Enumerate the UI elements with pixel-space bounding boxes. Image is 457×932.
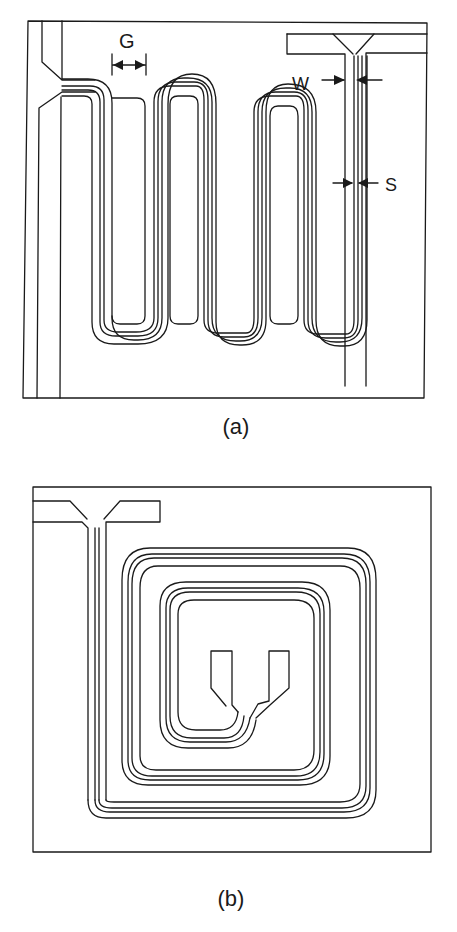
panel-b-spiral-resonator: (b) bbox=[33, 487, 431, 911]
figure-canvas: G W S (a) (b) bbox=[0, 0, 457, 932]
label-g: G bbox=[119, 30, 135, 52]
caption-b: (b) bbox=[218, 886, 245, 911]
panel-a-trace-outer bbox=[62, 56, 362, 342]
panel-b-t-left bbox=[33, 501, 88, 800]
panel-a-t-right bbox=[366, 53, 427, 386]
panel-a-trace-outline-outer bbox=[62, 56, 367, 346]
panel-a-slot-inner-1 bbox=[112, 98, 145, 324]
panel-a-meander-resonator: G W S (a) bbox=[23, 21, 427, 439]
panel-a-slot-inner-2 bbox=[170, 96, 198, 324]
panel-a-ground-line bbox=[60, 97, 61, 398]
panel-a-feed-outer bbox=[42, 21, 95, 80]
panel-a-slot-inner-3 bbox=[270, 106, 298, 324]
panel-b-pad-right bbox=[250, 651, 289, 718]
s-arrows-icon bbox=[343, 178, 368, 188]
label-s: S bbox=[385, 175, 397, 195]
panel-b-feed-center bbox=[95, 528, 99, 800]
panel-a-t-taper-right bbox=[356, 34, 374, 54]
panel-a-t-taper-left bbox=[333, 34, 353, 54]
panel-a-feed-lower bbox=[37, 92, 95, 398]
label-w: W bbox=[292, 74, 309, 94]
panel-b-pad-left bbox=[211, 651, 238, 712]
caption-a: (a) bbox=[223, 414, 250, 439]
